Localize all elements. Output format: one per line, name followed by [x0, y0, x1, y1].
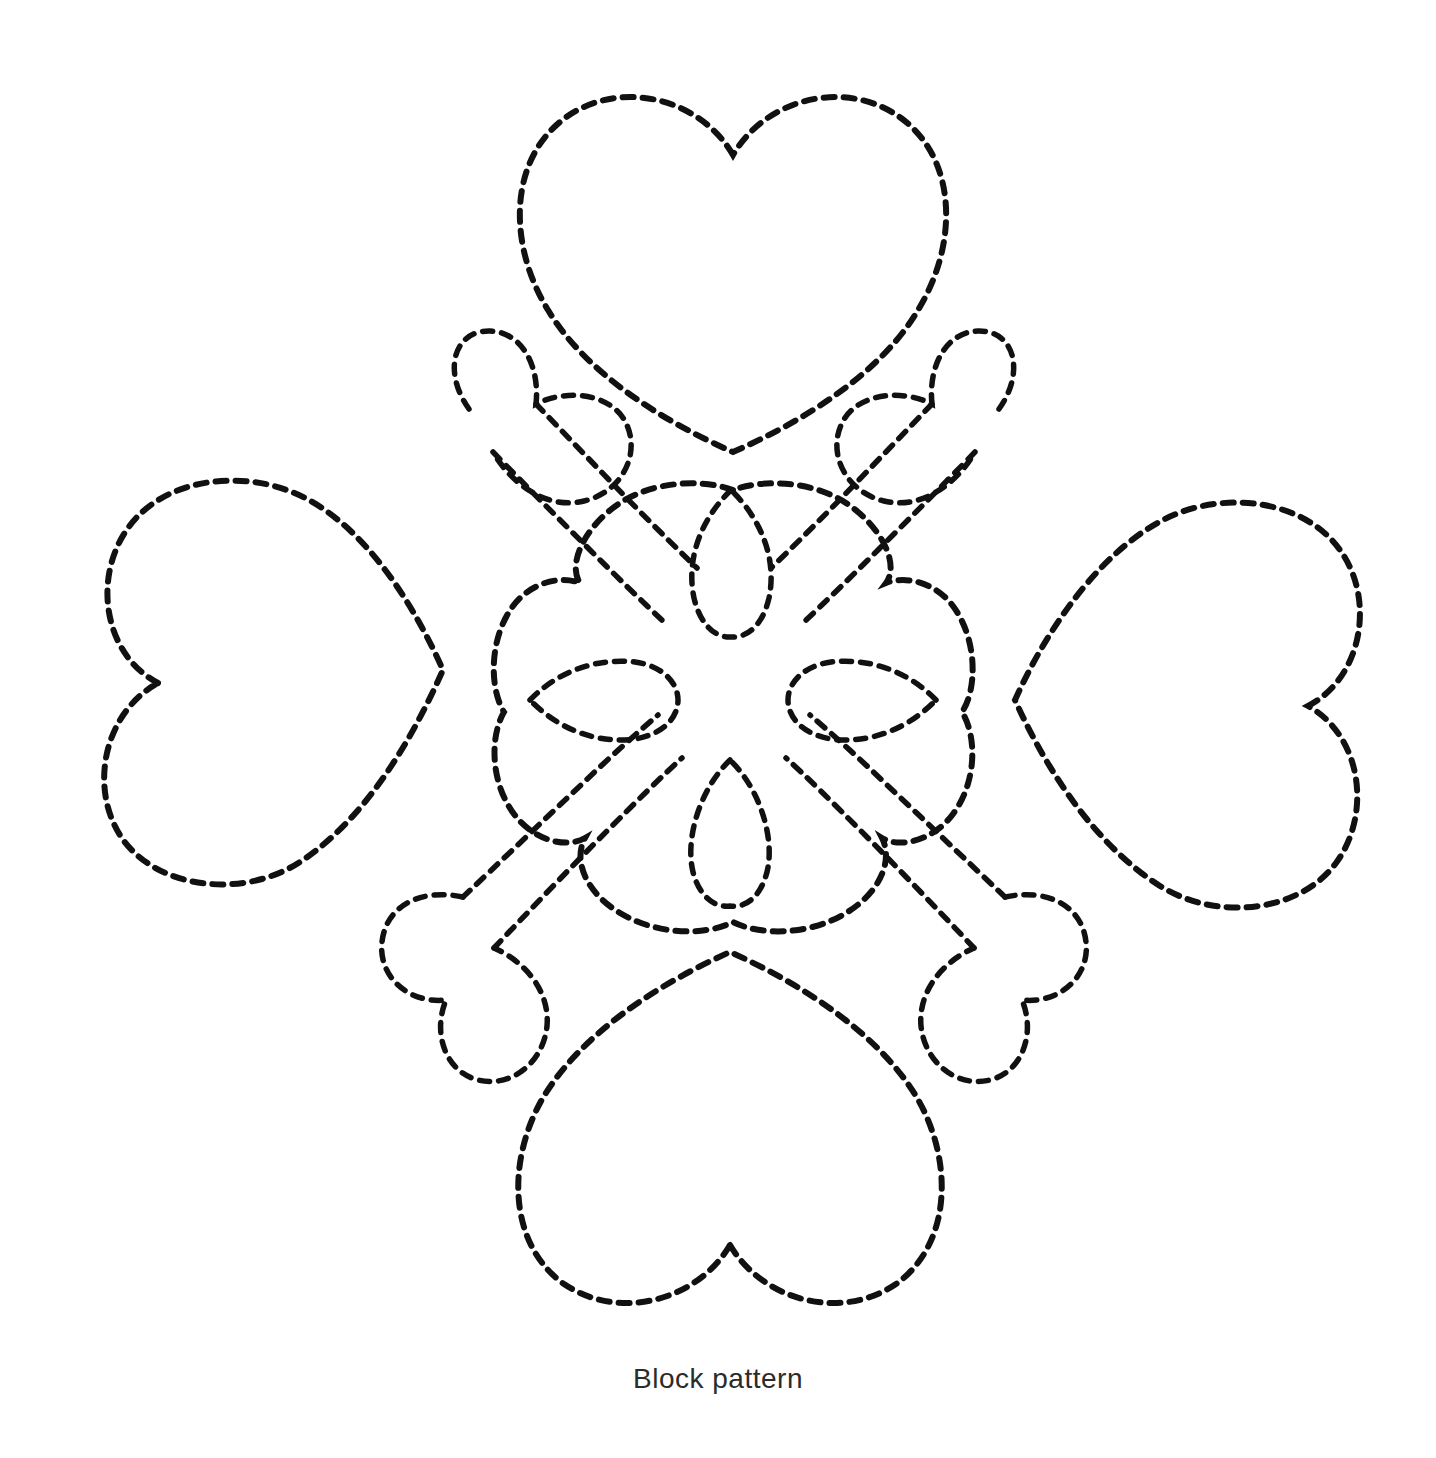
page-caption: Block pattern [0, 1363, 1436, 1395]
pattern-page: Block pattern [0, 0, 1436, 1458]
block-pattern-diagram [0, 0, 1436, 1458]
diagram-background [0, 0, 1436, 1458]
